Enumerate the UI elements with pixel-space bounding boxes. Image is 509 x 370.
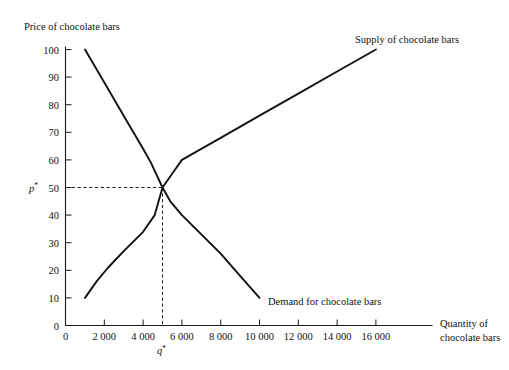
y-tick-label-40: 40 xyxy=(49,210,60,221)
y-tick-label-70: 70 xyxy=(49,127,60,138)
x-tick-label-6000: 6 000 xyxy=(170,331,194,342)
x-tick-label-12000: 12 000 xyxy=(284,331,313,342)
demand-curve-label: Demand for chocolate bars xyxy=(268,296,381,307)
supply-curve xyxy=(85,50,376,298)
y-tick-label-30: 30 xyxy=(49,238,60,249)
x-tick-label-4000: 4 000 xyxy=(131,331,155,342)
x-axis-title-line2: chocolate bars xyxy=(440,332,500,343)
x-tick-label-0: 0 xyxy=(63,331,68,342)
x-tick-label-14000: 14 000 xyxy=(323,331,352,342)
equilibrium-quantity-label: q* xyxy=(157,344,166,357)
y-tick-label-80: 80 xyxy=(49,100,60,111)
y-tick-label-60: 60 xyxy=(49,155,60,166)
x-tick-label-8000: 8 000 xyxy=(209,331,233,342)
y-tick-label-100: 100 xyxy=(43,45,59,56)
x-axis-ticks xyxy=(104,320,376,326)
x-tick-label-2000: 2 000 xyxy=(92,331,116,342)
x-tick-label-10000: 10 000 xyxy=(245,331,274,342)
x-tick-label-16000: 16 000 xyxy=(361,331,390,342)
equilibrium-price-label: p* xyxy=(28,181,38,194)
supply-curve-label: Supply of chocolate bars xyxy=(355,34,459,45)
y-tick-label-50: 50 xyxy=(49,183,60,194)
y-tick-label-0: 0 xyxy=(54,321,59,332)
y-tick-label-90: 90 xyxy=(49,72,60,83)
y-tick-label-20: 20 xyxy=(49,265,60,276)
y-tick-label-10: 10 xyxy=(49,293,60,304)
supply-demand-chart: Price of chocolate bars 100 90 80 70 60 … xyxy=(0,0,509,370)
figure-container: Price of chocolate bars 100 90 80 70 60 … xyxy=(0,0,509,370)
x-axis-title-line1: Quantity of xyxy=(440,318,489,329)
y-axis-title: Price of chocolate bars xyxy=(24,21,120,32)
